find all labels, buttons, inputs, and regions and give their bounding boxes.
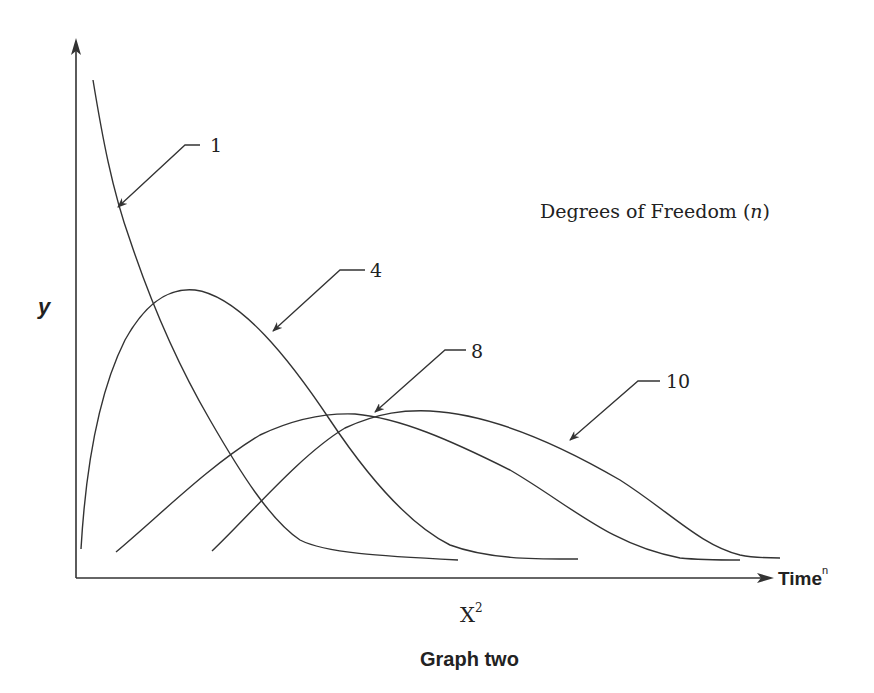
callout-label-10: 10 — [666, 370, 690, 392]
callout-label-8: 8 — [471, 340, 483, 362]
callout-arrow-4 — [273, 270, 365, 331]
callouts — [118, 145, 660, 440]
x-axis-label-sup: 2 — [475, 601, 483, 615]
legend-title-prefix: Degrees of Freedom ( — [540, 200, 750, 222]
x-axis-end-label-base: Time — [778, 568, 822, 589]
curve-df-8 — [116, 414, 740, 560]
chart-caption: Graph two — [420, 648, 519, 670]
curve-df-4 — [81, 290, 578, 559]
curves — [81, 80, 780, 560]
legend-title-var: n — [750, 200, 762, 222]
callout-arrow-1 — [118, 145, 200, 207]
x-axis-end-label: Timen — [778, 564, 828, 589]
callout-label-1: 1 — [210, 134, 222, 156]
callout-arrow-8 — [375, 350, 466, 412]
legend-title: Degrees of Freedom (n) — [540, 200, 770, 222]
curve-df-1 — [93, 80, 458, 560]
chi-square-chart: 1 4 8 10 Degrees of Freedom (n) y X2 Tim… — [0, 0, 874, 693]
y-axis-label: y — [37, 294, 52, 319]
callout-arrow-10 — [570, 381, 660, 440]
x-axis-label-base: X — [460, 603, 475, 627]
axes — [71, 38, 774, 583]
x-axis-end-label-sup: n — [822, 564, 828, 576]
callout-label-4: 4 — [370, 259, 382, 281]
curve-df-10 — [212, 411, 780, 558]
legend-title-suffix: ) — [763, 200, 770, 222]
x-axis-label: X2 — [460, 601, 483, 627]
